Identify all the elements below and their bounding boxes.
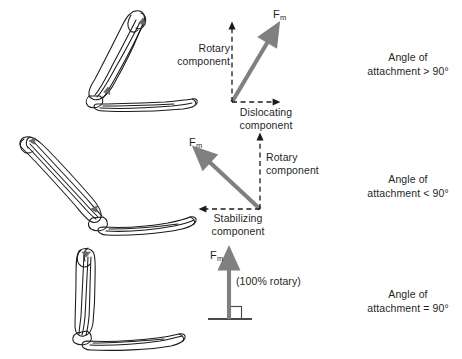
force-vector-fm: [202, 155, 260, 209]
vector-diagram-acute-flexion: Fm Rotary component Dislocating componen…: [178, 0, 356, 128]
caption-acute-flexion: Angle of attachment > 90°: [354, 0, 462, 128]
figure-row-obtuse-extension: Fm Rotary component Stabilizing componen…: [0, 128, 462, 243]
force-label-fm: Fm: [210, 249, 223, 261]
caption-right-angle: Angle of attachment = 90°: [354, 243, 462, 359]
rotary-component-label: Rotary component: [266, 151, 319, 177]
vector-diagram-obtuse-extension: Fm Rotary component Stabilizing componen…: [178, 128, 356, 243]
rotary-component-label: Rotary component: [174, 42, 230, 68]
force-vector-fm: [232, 33, 273, 102]
figure-row-right-angle: Fm (100% rotary) Angle of attachment = 9…: [0, 243, 462, 359]
caption-obtuse-extension: Angle of attachment < 90°: [354, 128, 462, 243]
pure-rotary-note-label: (100% rotary): [236, 275, 301, 288]
vector-diagram-right-angle: Fm (100% rotary): [178, 243, 356, 359]
stabilizing-component-label: Stabilizing component: [192, 212, 284, 238]
force-label-fm: Fm: [189, 136, 202, 148]
figure-canvas: Fm Rotary component Dislocating componen…: [0, 0, 462, 359]
figure-row-acute-flexion: Fm Rotary component Dislocating componen…: [0, 0, 462, 128]
force-label-fm: Fm: [273, 8, 286, 20]
